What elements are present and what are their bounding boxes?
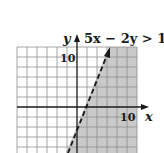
- y-axis-arrow-icon: [74, 34, 80, 42]
- x-axis-label: x: [144, 109, 153, 124]
- inequality-graph: y 5x − 2y > 1 10 10 x: [0, 0, 164, 153]
- y-tick-10: 10: [60, 52, 76, 65]
- inequality-label: 5x − 2y > 1: [84, 31, 164, 46]
- x-tick-10: 10: [120, 111, 136, 124]
- y-axis-label: y: [62, 31, 72, 46]
